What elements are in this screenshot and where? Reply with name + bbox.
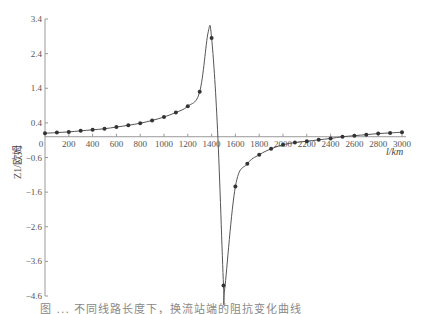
y-tick-label: 0.4 bbox=[31, 118, 43, 128]
data-point-marker bbox=[43, 131, 47, 135]
x-tick-label: 1200 bbox=[179, 139, 198, 149]
data-point-marker bbox=[317, 138, 321, 142]
y-axis: 3.42.41.40.4−0.6−1.6−2.6−3.6−4.6 bbox=[26, 14, 48, 301]
data-point-marker bbox=[352, 134, 356, 138]
data-point-marker bbox=[210, 36, 214, 40]
figure-caption: 图 ... 不同线路长度下，换流站端的阻抗变化曲线 bbox=[40, 300, 428, 314]
data-point-marker bbox=[103, 127, 107, 131]
data-point-marker bbox=[293, 141, 297, 145]
data-point-marker bbox=[162, 115, 166, 119]
x-tick-label: 200 bbox=[62, 139, 76, 149]
x-tick-label: 2600 bbox=[345, 139, 364, 149]
y-tick-label: −2.6 bbox=[26, 222, 43, 232]
x-tick-label: 2800 bbox=[369, 139, 388, 149]
series-line bbox=[45, 25, 402, 305]
data-point-marker bbox=[91, 128, 95, 132]
data-point-marker bbox=[126, 123, 130, 127]
x-axis-label: l/km bbox=[386, 146, 403, 157]
x-tick-label: 1000 bbox=[155, 139, 174, 149]
data-point-marker bbox=[174, 110, 178, 114]
y-tick-label: 2.4 bbox=[31, 49, 43, 59]
data-point-marker bbox=[198, 90, 202, 94]
data-point-marker bbox=[233, 185, 237, 189]
data-point-marker bbox=[150, 118, 154, 122]
y-tick-label: 3.4 bbox=[31, 14, 43, 24]
data-point-marker bbox=[222, 284, 226, 288]
x-tick-label: 600 bbox=[110, 139, 124, 149]
data-point-marker bbox=[329, 136, 333, 140]
data-point-marker bbox=[55, 131, 59, 135]
data-point-marker bbox=[245, 162, 249, 166]
x-tick-label: 1800 bbox=[250, 139, 269, 149]
data-point-marker bbox=[269, 147, 273, 151]
data-point-marker bbox=[341, 135, 345, 139]
x-tick-label: 400 bbox=[86, 139, 100, 149]
y-tick-label: −3.6 bbox=[26, 256, 43, 266]
y-axis-label: Z1/欧姆 bbox=[11, 145, 23, 179]
data-point-marker bbox=[364, 133, 368, 137]
data-point-marker bbox=[67, 130, 71, 134]
x-tick-label: 1600 bbox=[226, 139, 245, 149]
y-tick-label: 1.4 bbox=[31, 83, 43, 93]
data-point-marker bbox=[114, 125, 118, 129]
data-point-marker bbox=[305, 139, 309, 143]
data-point-marker bbox=[388, 131, 392, 135]
data-point-marker bbox=[400, 130, 404, 134]
data-point-marker bbox=[376, 132, 380, 136]
data-point-marker bbox=[186, 104, 190, 108]
x-tick-label: 800 bbox=[133, 139, 147, 149]
data-point-marker bbox=[281, 143, 285, 147]
data-point-marker bbox=[138, 121, 142, 125]
x-tick-label: 0 bbox=[39, 139, 44, 149]
data-point-marker bbox=[257, 153, 261, 157]
y-tick-label: −0.6 bbox=[26, 153, 43, 163]
data-point-marker bbox=[79, 129, 83, 133]
series-markers bbox=[43, 36, 404, 288]
y-tick-label: −1.6 bbox=[26, 187, 43, 197]
